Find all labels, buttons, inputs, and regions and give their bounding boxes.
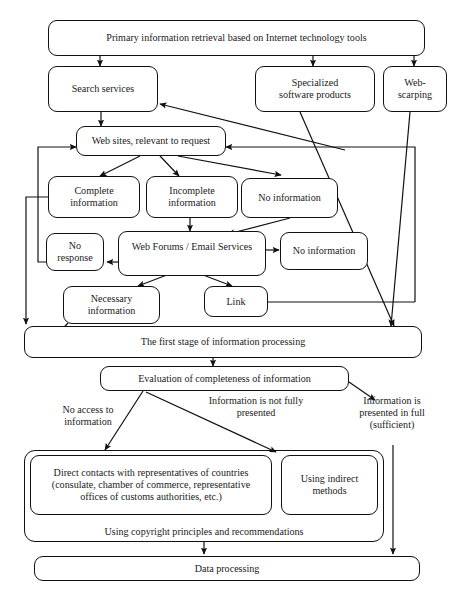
node-web-forums[interactable]: Web Forums / Email Services	[118, 231, 266, 276]
node-link[interactable]: Link	[204, 286, 268, 317]
node-necessary-information-label: Necessary information	[88, 293, 136, 317]
node-complete-information-label: Complete information	[70, 185, 118, 209]
node-indirect-methods[interactable]: Using indirect methods	[281, 455, 378, 515]
node-incomplete-information[interactable]: Incomplete information	[146, 176, 238, 218]
edge-websites-to-incomplete	[160, 156, 179, 176]
node-data-processing-label: Data processing	[195, 563, 260, 575]
node-search-services-label: Search services	[72, 83, 135, 95]
node-no-information-top[interactable]: No information	[241, 178, 338, 218]
node-indirect-methods-label: Using indirect methods	[301, 473, 358, 497]
edge-label-presented-in-full: Information is presented in full (suffic…	[337, 395, 447, 431]
node-primary-retrieval[interactable]: Primary information retrieval based on I…	[48, 20, 425, 56]
edge-label-not-fully-presented: Information is not fully presented	[186, 395, 326, 419]
node-complete-information[interactable]: Complete information	[48, 176, 140, 218]
flowchart-canvas: Primary information retrieval based on I…	[0, 0, 467, 600]
node-direct-contacts[interactable]: Direct contacts with representatives of …	[30, 455, 272, 515]
node-web-scarping[interactable]: Web- scarping	[383, 66, 447, 112]
node-link-label: Link	[226, 296, 245, 308]
node-specialized-software[interactable]: Specialized software products	[255, 66, 375, 112]
edge-specialized-to-firststage	[300, 112, 394, 326]
node-web-forums-label: Web Forums / Email Services	[132, 241, 252, 253]
node-first-stage-label: The first stage of information processin…	[141, 336, 306, 348]
node-no-information-mid-label: No information	[293, 245, 356, 257]
node-no-information-mid[interactable]: No information	[280, 232, 368, 270]
edge-websites-to-complete	[100, 156, 140, 176]
node-direct-contacts-label: Direct contacts with representatives of …	[52, 467, 250, 503]
edge-websites-to-noinfo-top	[178, 156, 281, 175]
node-incomplete-information-label: Incomplete information	[168, 185, 216, 209]
edge-webscarping-to-firststage	[391, 112, 410, 326]
node-no-response[interactable]: No response	[46, 233, 104, 271]
node-web-sites-label: Web sites, relevant to request	[92, 135, 210, 147]
node-necessary-information[interactable]: Necessary information	[63, 286, 160, 324]
node-web-sites[interactable]: Web sites, relevant to request	[76, 126, 226, 156]
node-evaluation-label: Evaluation of completeness of informatio…	[138, 373, 311, 385]
edge-complete-to-firststage	[26, 197, 48, 324]
node-no-information-top-label: No information	[258, 192, 321, 204]
node-primary-retrieval-label: Primary information retrieval based on I…	[106, 32, 366, 44]
edge-label-no-access: No access to information	[33, 404, 143, 428]
node-search-services[interactable]: Search services	[48, 66, 158, 112]
node-no-response-label: No response	[57, 240, 92, 264]
node-specialized-software-label: Specialized software products	[279, 77, 351, 101]
node-data-processing[interactable]: Data processing	[34, 556, 420, 581]
node-evaluation[interactable]: Evaluation of completeness of informatio…	[100, 366, 349, 391]
edge-rail-to-websites	[226, 147, 415, 302]
node-first-stage[interactable]: The first stage of information processin…	[24, 326, 422, 358]
node-copyright-principles: Using copyright principles and recommend…	[24, 526, 384, 538]
node-web-scarping-label: Web- scarping	[398, 77, 432, 101]
